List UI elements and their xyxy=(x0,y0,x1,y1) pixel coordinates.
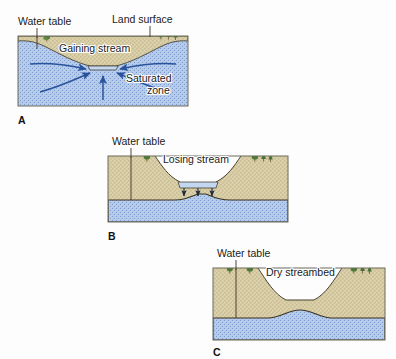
panel-c-stream-label: Dry streambed xyxy=(266,266,335,278)
panel-a-zone-label-line2: zone xyxy=(147,84,170,96)
panel-b-stream-label: Losing stream xyxy=(163,153,229,165)
panel-a-stream-label: Gaining stream xyxy=(59,42,130,54)
panel-a-zone-label-line1: Saturated xyxy=(126,72,172,84)
stream-groundwater-diagram: Water table Land surface Gaining stream … xyxy=(0,0,396,359)
panel-a: Water table Land surface Gaining stream … xyxy=(18,13,188,126)
panel-a-letter: A xyxy=(18,114,26,126)
panel-b-letter: B xyxy=(108,230,116,242)
panel-a-land-surface-label: Land surface xyxy=(112,13,173,25)
figure-root: Water table Land surface Gaining stream … xyxy=(0,0,396,359)
panel-c-letter: C xyxy=(213,346,221,358)
panel-a-stream-water xyxy=(88,66,118,70)
panel-b-water-table-label: Water table xyxy=(112,135,165,147)
panel-a-water-table-label: Water table xyxy=(18,15,71,27)
panel-b: Water table Losing stream B xyxy=(108,135,288,242)
panel-c-water-table-label: Water table xyxy=(217,247,270,259)
panel-b-stream-water xyxy=(178,182,218,188)
panel-c: Water table Dry streambed C xyxy=(213,247,385,358)
